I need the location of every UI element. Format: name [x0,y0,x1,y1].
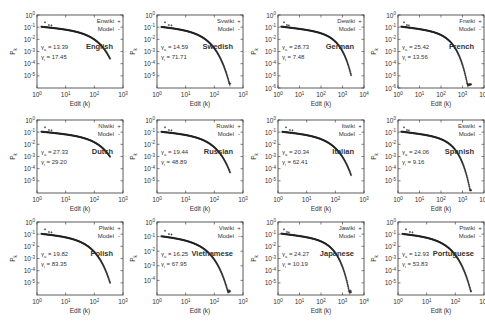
x-tick-label: 100 [32,91,42,99]
y-tick-label: 10-4 [265,267,277,275]
x-tick-label: 100 [32,298,42,306]
x-tick-label: 102 [209,196,219,204]
x-tick-label: 101 [181,91,191,99]
y-tick-label: 10-5 [265,177,277,185]
y-tick-label: 10-2 [265,242,277,250]
x-tick-label: 102 [89,91,99,99]
y-axis-label: Pk [370,254,379,261]
legend-data-label: Eswiki [458,123,475,129]
panel-title: Vietnamese [191,249,233,258]
x-tick-label: 101 [295,298,305,306]
x-tick-label: 104 [479,196,485,204]
panel-title: Spanish [445,147,475,156]
y-tick-label: 10-1 [24,128,36,136]
x-axis-label: Edit (k) [70,307,91,315]
y-tick-label: 10-2 [144,140,156,148]
legend-model-label: Model [339,131,355,137]
y-tick-label: 10-1 [144,23,156,31]
svg-text:+: + [478,123,482,129]
gamma-i-annotation: γi = 53.83 [402,261,428,269]
y-tick-label: 10-4 [265,60,277,68]
x-tick-label: 100 [152,298,162,306]
x-tick-label: 102 [316,298,326,306]
y-tick-label: 10-1 [265,230,277,238]
y-axis-label: Pk [129,47,138,54]
gamma-i-annotation: γi = 67.95 [161,261,187,269]
svg-text:-: - [238,26,240,32]
y-tick-label: 10-3 [265,255,277,263]
y-axis-label: Pk [129,152,138,159]
y-tick-label: 10-4 [385,165,397,173]
y-tick-label: 10-3 [265,48,277,56]
y-axis-label: Pk [9,152,18,159]
x-tick-label: 101 [181,298,191,306]
y-tick-label: 100 [145,11,155,19]
legend-data-label: Ruwiki [216,123,234,129]
legend-model-label: Model [459,131,475,137]
y-tick-label: 10-5 [144,72,156,80]
y-tick-label: 10-3 [385,48,397,56]
svg-text:-: - [479,233,481,239]
y-tick-label: 100 [386,116,396,124]
gamma-i-annotation: γi = 9.16 [402,159,425,167]
y-tick-label: 10-4 [144,276,156,284]
gamma-i-annotation: γi = 17.45 [41,54,67,62]
x-tick-label: 102 [209,91,219,99]
legend: Eswiki+Model- [458,123,482,137]
panel-portuguese: 10010110210310010-110-210-310-410-5Edit … [361,207,481,312]
y-tick-label: 10-5 [385,72,397,80]
x-tick-label: 100 [393,196,403,204]
panel-title: Portuguese [433,249,474,258]
legend: Svwiki+Model- [217,18,241,32]
y-tick-label: 10-3 [265,153,277,161]
y-tick-label: 10-2 [24,140,36,148]
legend-model-label: Model [459,26,475,32]
panel-title: Russian [204,147,234,156]
legend-data-label: Svwiki [217,18,234,24]
legend-model-label: Model [98,26,114,32]
legend-data-label: Nlwiki [98,123,114,129]
legend: Ruwiki+Model- [216,123,241,137]
legend-data-label: Plwiki [99,225,114,231]
legend-data-label: Viwiki [219,225,234,231]
y-tick-label: 10-3 [385,153,397,161]
x-tick-label: 102 [209,298,219,306]
y-axis-label: Pk [9,47,18,54]
legend: Itwiki+Model- [339,123,363,137]
y-tick-label: 10-1 [265,23,277,31]
y-tick-label: 100 [25,11,35,19]
x-tick-label: 100 [393,298,403,306]
gamma-a-annotation: γa = 20.34 [282,149,310,157]
y-tick-label: 10-2 [144,35,156,43]
y-axis-label: Pk [370,152,379,159]
x-tick-label: 101 [61,196,71,204]
y-tick-label: 10-1 [144,233,156,241]
gamma-i-annotation: γi = 71.71 [161,54,187,62]
y-tick-label: 10-5 [385,279,397,287]
x-tick-label: 102 [89,196,99,204]
y-tick-label: 10-2 [144,247,156,255]
gamma-a-annotation: γa = 16.25 [161,251,189,259]
y-tick-label: 10-3 [385,255,397,263]
legend: Frwiki+Model- [459,18,483,32]
svg-text:+: + [478,18,482,24]
x-tick-label: 102 [89,298,99,306]
gamma-i-annotation: γi = 7.48 [282,54,305,62]
y-tick-label: 10-2 [24,35,36,43]
y-tick-label: 100 [266,11,276,19]
y-tick-label: 10-4 [144,165,156,173]
y-tick-label: 10-3 [144,153,156,161]
x-tick-label: 103 [338,298,348,306]
panel-russian: 10010110210310010-110-210-310-410-5Edit … [120,105,240,210]
gamma-a-annotation: γa = 24.06 [402,149,430,157]
gamma-i-annotation: γi = 83.35 [41,261,67,269]
panel-polish: 10010110210310010-110-210-310-410-5Edit … [0,207,120,312]
panel-title: Japanese [320,249,354,258]
legend: Ptwiki+Model- [459,225,483,239]
panel-title: French [449,42,474,51]
x-tick-label: 104 [479,91,485,99]
x-axis-label: Edit (k) [431,307,452,315]
y-tick-label: 10-5 [24,72,36,80]
y-tick-label: 100 [266,116,276,124]
y-tick-label: 100 [25,116,35,124]
